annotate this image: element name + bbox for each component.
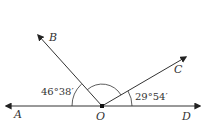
angle-aob-label: 46°38′: [41, 86, 74, 97]
arc-cod: [128, 91, 132, 106]
label-d: D: [181, 110, 191, 123]
arc-boc: [87, 84, 121, 95]
label-c: C: [174, 63, 183, 76]
label-b: B: [48, 31, 57, 44]
angle-diagram: A B C D O 46°38′ 29°54′: [0, 0, 208, 125]
label-o: O: [96, 110, 105, 123]
label-a: A: [13, 108, 22, 121]
angle-cod-label: 29°54′: [135, 91, 168, 102]
vertex-o-dot: [100, 104, 104, 108]
